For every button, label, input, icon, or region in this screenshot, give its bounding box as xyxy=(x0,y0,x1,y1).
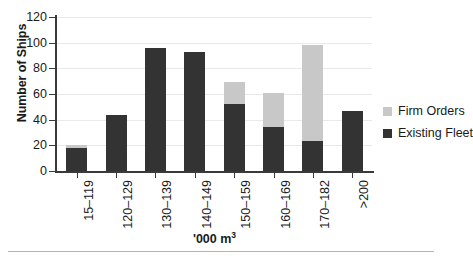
bar-segment-existing-fleet xyxy=(106,115,127,171)
x-axis-tick xyxy=(155,173,156,178)
bar-group xyxy=(106,115,127,171)
bar-group xyxy=(263,93,284,171)
legend-item: Existing Fleet xyxy=(383,122,473,144)
y-axis-tick-label-wrap: 40 xyxy=(0,114,47,126)
footer-divider xyxy=(8,251,434,252)
x-axis-tick xyxy=(195,173,196,178)
legend-swatch xyxy=(383,107,392,116)
plot-area xyxy=(57,17,372,171)
y-axis-tick-label-wrap: 80 xyxy=(0,62,47,74)
bar-segment-existing-fleet xyxy=(302,141,323,171)
legend-label: Firm Orders xyxy=(398,105,465,118)
x-axis-tick xyxy=(313,173,314,178)
legend-item: Firm Orders xyxy=(383,100,473,122)
bar-group xyxy=(184,52,205,171)
x-axis-title-text: '000 m xyxy=(193,232,231,246)
y-axis-tick-label: 80 xyxy=(3,62,47,74)
bar-segment-existing-fleet xyxy=(224,104,245,171)
legend-label: Existing Fleet xyxy=(398,127,473,140)
bar-group xyxy=(145,48,166,171)
y-axis-tick-label: 40 xyxy=(3,114,47,126)
chart-legend: Firm OrdersExisting Fleet xyxy=(383,100,473,144)
y-axis-tick-label: 0 xyxy=(3,165,47,177)
y-axis-tick-label: 120 xyxy=(3,11,47,23)
bar-segment-existing-fleet xyxy=(184,52,205,171)
x-axis-tick xyxy=(77,173,78,178)
bar-segment-firm-orders xyxy=(263,93,284,128)
x-axis-tick xyxy=(352,173,353,178)
x-axis-tick xyxy=(234,173,235,178)
bar-segment-existing-fleet xyxy=(145,48,166,171)
y-axis-tick-label-wrap: 60 xyxy=(0,88,47,100)
bar-segment-firm-orders xyxy=(224,82,245,104)
x-axis-line xyxy=(55,171,374,173)
y-axis-tick-label: 20 xyxy=(3,139,47,151)
x-axis-tick xyxy=(116,173,117,178)
bar-segment-existing-fleet xyxy=(66,148,87,171)
y-axis-tick-label-wrap: 0 xyxy=(0,165,47,177)
x-axis-tick xyxy=(274,173,275,178)
x-axis-title-superscript: 3 xyxy=(231,230,236,240)
bar-segment-existing-fleet xyxy=(342,111,363,171)
y-axis-tick-label-wrap: 20 xyxy=(0,139,47,151)
legend-swatch xyxy=(383,129,392,138)
y-axis-tick-label-wrap: 100 xyxy=(0,37,47,49)
bar-group xyxy=(342,111,363,171)
bar-segment-existing-fleet xyxy=(263,127,284,171)
bar-group xyxy=(66,145,87,171)
y-axis-tick-label-wrap: 120 xyxy=(0,11,47,23)
bar-group xyxy=(302,45,323,171)
bar-segment-firm-orders xyxy=(302,45,323,141)
y-axis-tick-label: 60 xyxy=(3,88,47,100)
x-axis-title: '000 m3 xyxy=(57,232,372,246)
y-axis-tick-label: 100 xyxy=(3,37,47,49)
bar-group xyxy=(224,82,245,171)
